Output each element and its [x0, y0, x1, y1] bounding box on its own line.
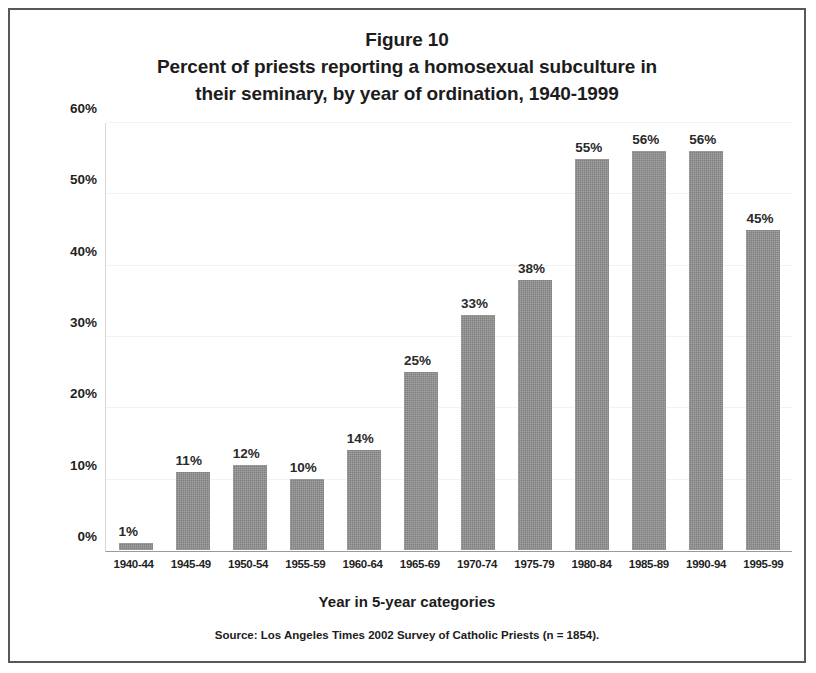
bar-value-label: 38%: [518, 261, 545, 276]
bar-value-label: 14%: [347, 431, 374, 446]
bar-slot: 10%: [278, 123, 335, 550]
x-axis-tick-label: 1965-69: [391, 558, 448, 570]
bar-value-label: 1%: [119, 524, 139, 539]
bar-slot: 1%: [107, 123, 164, 550]
bar-slot: 56%: [621, 123, 678, 550]
x-axis-tick-label: 1985-89: [620, 558, 677, 570]
bar[interactable]: 1%: [119, 543, 153, 550]
y-axis-tick-label: 50%: [70, 172, 97, 187]
x-axis-tick-label: 1980-84: [563, 558, 620, 570]
bar[interactable]: 33%: [461, 315, 495, 550]
bar[interactable]: 56%: [689, 151, 723, 550]
plot-area: 0%10%20%30%40%50%60% 1%11%12%10%14%25%33…: [105, 123, 792, 552]
figure-number: Figure 10: [10, 26, 804, 53]
bar-series: 1%11%12%10%14%25%33%38%55%56%56%45%: [107, 123, 792, 550]
figure-frame: Figure 10 Percent of priests reporting a…: [8, 8, 806, 663]
bar[interactable]: 25%: [404, 372, 438, 550]
source-note: Source: Los Angeles Times 2002 Survey of…: [10, 629, 804, 641]
bar-slot: 55%: [564, 123, 621, 550]
bar[interactable]: 55%: [575, 159, 609, 550]
x-axis-tick-label: 1950-54: [220, 558, 277, 570]
x-axis-tick-label: 1960-64: [334, 558, 391, 570]
bar-slot: 45%: [735, 123, 792, 550]
bar-value-label: 55%: [575, 140, 602, 155]
bar-value-label: 25%: [404, 353, 431, 368]
figure-title-line-1: Percent of priests reporting a homosexua…: [10, 53, 804, 80]
y-axis-tick-label: 10%: [70, 457, 97, 472]
bar-slot: 56%: [678, 123, 735, 550]
bar-value-label: 33%: [461, 296, 488, 311]
x-axis-tick-label: 1970-74: [449, 558, 506, 570]
x-axis-tick-label: 1995-99: [735, 558, 792, 570]
y-axis-tick-label: 0%: [77, 529, 97, 544]
bar[interactable]: 56%: [632, 151, 666, 550]
x-axis-tick-labels: 1940-441945-491950-541955-591960-641965-…: [105, 558, 792, 570]
gridline: [106, 550, 792, 551]
figure-title-block: Figure 10 Percent of priests reporting a…: [10, 26, 804, 107]
bar-slot: 25%: [392, 123, 449, 550]
x-axis-tick-label: 1975-79: [506, 558, 563, 570]
bar[interactable]: 45%: [746, 230, 780, 550]
y-axis-tick-label: 30%: [70, 315, 97, 330]
bar-value-label: 45%: [746, 211, 773, 226]
x-axis-title: Year in 5-year categories: [10, 593, 804, 610]
bar-slot: 14%: [335, 123, 392, 550]
bar[interactable]: 10%: [290, 479, 324, 550]
bar-value-label: 56%: [689, 132, 716, 147]
bar[interactable]: 11%: [176, 472, 210, 550]
bar[interactable]: 38%: [518, 280, 552, 550]
y-axis-tick-label: 20%: [70, 386, 97, 401]
bar-slot: 11%: [164, 123, 221, 550]
bar-value-label: 12%: [233, 446, 260, 461]
y-axis-tick-label: 40%: [70, 243, 97, 258]
bar-slot: 12%: [221, 123, 278, 550]
bar-value-label: 10%: [290, 460, 317, 475]
bar[interactable]: 12%: [233, 465, 267, 550]
bar-slot: 33%: [449, 123, 506, 550]
figure-title-line-2: their seminary, by year of ordination, 1…: [10, 80, 804, 107]
x-axis-tick-label: 1990-94: [678, 558, 735, 570]
x-axis-tick-label: 1945-49: [162, 558, 219, 570]
bar-slot: 38%: [507, 123, 564, 550]
x-axis-tick-label: 1940-44: [105, 558, 162, 570]
bar[interactable]: 14%: [347, 450, 381, 550]
bar-value-label: 11%: [176, 453, 202, 468]
bar-value-label: 56%: [632, 132, 659, 147]
y-axis-tick-label: 60%: [70, 101, 97, 116]
x-axis-tick-label: 1955-59: [277, 558, 334, 570]
